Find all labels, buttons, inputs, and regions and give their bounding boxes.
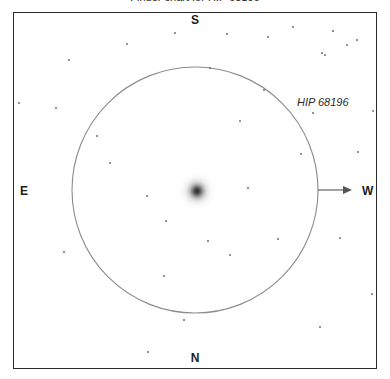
cardinal-label-east: E (20, 185, 28, 197)
object-label-hip-68196: HIP 68196 (297, 97, 349, 108)
cardinal-label-north: N (0, 352, 390, 364)
sky-field (0, 0, 390, 379)
finder-chart: Finder chart for HIP 68196 HIP 68196 S N… (0, 0, 390, 379)
west-direction-arrow (318, 186, 352, 194)
cardinal-label-south: S (0, 14, 390, 26)
field-of-view-circle (72, 67, 318, 313)
cardinal-label-west: W (362, 185, 373, 197)
